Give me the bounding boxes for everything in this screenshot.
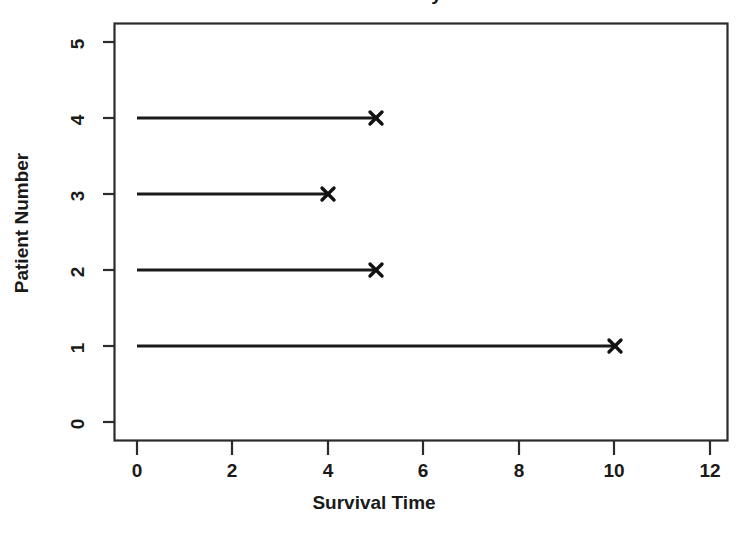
event-markers <box>322 112 621 352</box>
y-tick-label-4: 4 <box>67 100 89 140</box>
x-axis-label: Survival Time <box>0 492 748 514</box>
plot-area <box>0 0 748 533</box>
y-axis-ticks <box>103 42 114 422</box>
x-tick-label-10: 10 <box>594 460 634 482</box>
x-axis-ticks <box>137 440 710 455</box>
y-axis-label: Patient Number <box>11 113 33 333</box>
x-tick-label-2: 2 <box>212 460 252 482</box>
y-tick-label-0: 0 <box>67 404 89 444</box>
x-tick-label-6: 6 <box>403 460 443 482</box>
y-tick-label-2: 2 <box>67 252 89 292</box>
y-tick-label-3: 3 <box>67 176 89 216</box>
x-tick-label-4: 4 <box>308 460 348 482</box>
survival-chart-figure: Survival Study <box>0 0 748 533</box>
x-tick-label-12: 12 <box>690 460 730 482</box>
survival-segments <box>137 118 615 346</box>
plot-frame <box>115 24 728 441</box>
x-tick-label-8: 8 <box>499 460 539 482</box>
y-tick-label-5: 5 <box>67 24 89 64</box>
y-tick-label-1: 1 <box>67 328 89 368</box>
x-tick-label-0: 0 <box>117 460 157 482</box>
